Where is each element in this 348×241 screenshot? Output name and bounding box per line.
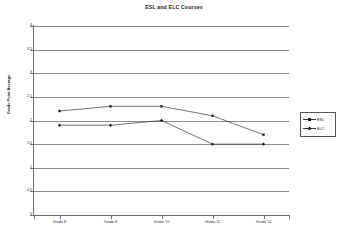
legend-item-elc[interactable]: ELC bbox=[303, 124, 333, 133]
x-axis-boundary-tick bbox=[34, 215, 35, 219]
y-tick-mark bbox=[30, 144, 34, 145]
gridline bbox=[34, 191, 289, 192]
y-tick-label: 3 bbox=[12, 71, 32, 75]
x-tick-label: Grade 12 bbox=[242, 221, 286, 225]
x-tick-mark bbox=[60, 215, 61, 219]
x-tick-mark bbox=[162, 215, 163, 219]
y-tick-mark bbox=[30, 50, 34, 51]
legend-item-esl[interactable]: ESL bbox=[303, 115, 333, 124]
x-tick-label: Grade 8 bbox=[38, 221, 82, 225]
y-tick-label: 2.5 bbox=[12, 95, 32, 99]
x-tick-mark bbox=[213, 215, 214, 219]
y-tick-label: 0.5 bbox=[12, 189, 32, 193]
gridline bbox=[34, 168, 289, 169]
x-tick-mark bbox=[111, 215, 112, 219]
y-tick-label: 1 bbox=[12, 166, 32, 170]
x-tick-mark bbox=[264, 215, 265, 219]
y-axis-tick-labels: 00.511.522.533.54 bbox=[0, 0, 32, 241]
y-tick-mark bbox=[30, 168, 34, 169]
y-tick-label: 4 bbox=[12, 24, 32, 28]
plot-area bbox=[34, 26, 289, 215]
gridline bbox=[34, 73, 289, 74]
x-tick-label: Grade 9 bbox=[89, 221, 133, 225]
y-tick-mark bbox=[30, 191, 34, 192]
legend-label-esl: ESL bbox=[316, 117, 324, 122]
legend-label-elc: ELC bbox=[316, 126, 325, 131]
y-tick-mark bbox=[30, 97, 34, 98]
chart-legend: ESL ELC bbox=[300, 112, 336, 137]
chart-title: ESL and ELC Courses bbox=[0, 4, 348, 10]
gridline bbox=[34, 26, 289, 27]
y-tick-mark bbox=[30, 26, 34, 27]
gridline bbox=[34, 97, 289, 98]
gridline bbox=[34, 144, 289, 145]
y-tick-mark bbox=[30, 73, 34, 74]
legend-marker-square-icon bbox=[303, 116, 316, 123]
y-tick-label: 0 bbox=[12, 213, 32, 217]
x-axis-boundary-tick bbox=[289, 215, 290, 219]
gridline bbox=[34, 50, 289, 51]
chart-container: ESL and ELC Courses Grade Point Average … bbox=[0, 0, 348, 241]
legend-marker-diamond-icon bbox=[303, 125, 316, 132]
y-tick-label: 2 bbox=[12, 119, 32, 123]
gridline bbox=[34, 121, 289, 122]
y-tick-label: 3.5 bbox=[12, 48, 32, 52]
x-tick-label: Grade 11 bbox=[191, 221, 235, 225]
y-tick-mark bbox=[30, 121, 34, 122]
y-tick-label: 1.5 bbox=[12, 142, 32, 146]
x-tick-label: Grade 10 bbox=[140, 221, 184, 225]
